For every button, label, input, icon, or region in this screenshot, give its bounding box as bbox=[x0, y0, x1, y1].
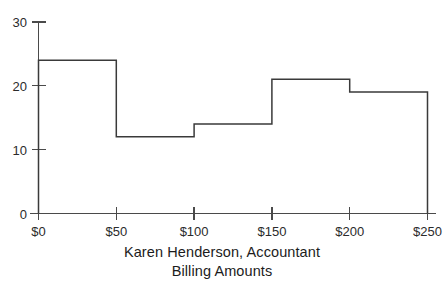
y-tick-label-0: 0 bbox=[20, 207, 27, 222]
x-tick-label-50: $50 bbox=[105, 224, 127, 239]
x-axis-tick-labels: $0 $50 $100 $150 $200 $250 bbox=[31, 224, 442, 239]
x-tick-label-100: $100 bbox=[180, 224, 209, 239]
x-tick-label-150: $150 bbox=[257, 224, 286, 239]
histogram-figure: 30 20 10 0 $0 $50 $100 $150 $200 $250 Ka… bbox=[0, 0, 444, 286]
x-tick-label-250: $250 bbox=[413, 224, 442, 239]
caption-line-2: Billing Amounts bbox=[0, 262, 444, 281]
y-tick-label-10: 10 bbox=[13, 143, 27, 158]
x-tick-label-0: $0 bbox=[31, 224, 45, 239]
y-tick-label-20: 20 bbox=[13, 79, 27, 94]
histogram-bars bbox=[39, 60, 428, 213]
y-axis-tick-labels: 30 20 10 0 bbox=[13, 15, 27, 222]
figure-caption: Karen Henderson, Accountant Billing Amou… bbox=[0, 243, 444, 281]
y-tick-label-30: 30 bbox=[13, 15, 27, 30]
caption-line-1: Karen Henderson, Accountant bbox=[0, 243, 444, 262]
x-tick-label-200: $200 bbox=[335, 224, 364, 239]
